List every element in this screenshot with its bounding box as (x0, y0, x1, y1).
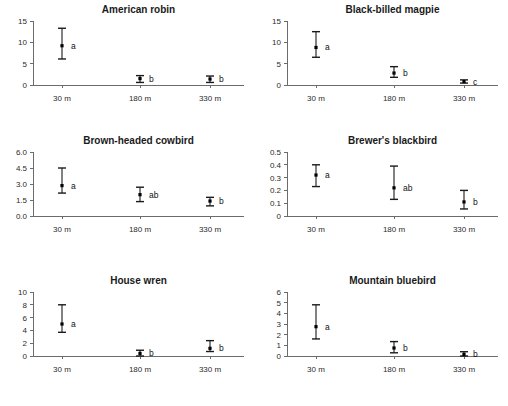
data-point-group: a (312, 305, 330, 339)
mean-marker (60, 44, 63, 47)
mean-marker (208, 199, 211, 202)
x-tick-label: 30 m (307, 365, 325, 374)
y-tick-label: 0.2 (270, 186, 282, 195)
panel-title: Mountain bluebird (349, 275, 436, 286)
panel-title: Brewer's blackbird (348, 135, 437, 146)
mean-marker (208, 347, 211, 350)
significance-letter: b (403, 68, 408, 78)
x-tick-label: 330 m (453, 94, 476, 103)
significance-letter: b (149, 348, 154, 358)
panel-plot: Mountain bluebird012345630 m180 m330 mab… (254, 271, 508, 406)
y-tick-label: 10 (272, 38, 281, 47)
significance-letter: b (473, 197, 478, 207)
x-tick-label: 180 m (383, 225, 406, 234)
y-tick-label: 0 (277, 352, 282, 361)
mean-marker (392, 71, 395, 74)
significance-letter: b (473, 349, 478, 359)
y-tick-label: 10 (18, 38, 27, 47)
data-point-group: b (206, 74, 224, 84)
mean-marker (60, 184, 63, 187)
panel-plot: Black-billed magpie05101530 m180 m330 ma… (254, 0, 508, 135)
data-point-group: b (136, 74, 154, 84)
panel-plot: House wren024681030 m180 m330 mabb (0, 271, 254, 406)
y-tick-label: 0.5 (270, 148, 282, 157)
x-tick-label: 30 m (53, 225, 71, 234)
data-point-group: a (312, 165, 330, 187)
y-tick-label: 6.0 (16, 148, 28, 157)
chart-panel: House wren024681030 m180 m330 mabb (0, 271, 254, 406)
y-tick-label: 0 (277, 81, 282, 90)
mean-marker (60, 322, 63, 325)
x-tick-label: 30 m (307, 225, 325, 234)
chart-panel: Black-billed magpie05101530 m180 m330 ma… (254, 0, 508, 135)
mean-marker (462, 353, 465, 356)
x-tick-label: 180 m (383, 94, 406, 103)
y-tick-label: 1.5 (16, 196, 28, 205)
significance-letter: b (149, 74, 154, 84)
y-tick-label: 4 (277, 309, 282, 318)
x-tick-label: 180 m (129, 225, 152, 234)
significance-letter: b (219, 196, 224, 206)
mean-marker (208, 77, 211, 80)
panel-title: Brown-headed cowbird (83, 135, 194, 146)
x-tick-label: 30 m (307, 94, 325, 103)
panel-title: Black-billed magpie (346, 4, 440, 15)
y-tick-label: 0 (277, 212, 282, 221)
mean-marker (462, 200, 465, 203)
y-tick-label: 0.4 (270, 161, 282, 170)
y-tick-label: 6 (23, 314, 28, 323)
y-tick-label: 15 (18, 17, 27, 26)
y-tick-label: 6 (277, 288, 282, 297)
mean-marker (314, 173, 317, 176)
data-point-group: ab (390, 166, 413, 199)
significance-letter: a (325, 42, 330, 52)
significance-letter: ab (403, 183, 413, 193)
y-tick-label: 5 (277, 60, 282, 69)
x-tick-label: 180 m (129, 94, 152, 103)
significance-letter: a (325, 322, 330, 332)
data-point-group: b (460, 349, 478, 359)
mean-marker (462, 80, 465, 83)
y-tick-label: 5 (277, 299, 282, 308)
x-tick-label: 30 m (53, 365, 71, 374)
x-tick-label: 330 m (199, 94, 222, 103)
mean-marker (392, 186, 395, 189)
data-point-group: b (390, 67, 408, 78)
data-point-group: b (390, 342, 408, 353)
data-point-group: a (58, 168, 76, 193)
data-point-group: b (206, 341, 224, 354)
mean-marker (314, 325, 317, 328)
significance-letter: a (71, 41, 76, 51)
mean-marker (392, 346, 395, 349)
data-point-group: b (206, 196, 224, 206)
y-tick-label: 10 (18, 288, 27, 297)
mean-marker (138, 193, 141, 196)
x-tick-label: 180 m (129, 365, 152, 374)
x-tick-label: 330 m (199, 365, 222, 374)
y-tick-label: 0.3 (270, 174, 282, 183)
chart-panel: American robin05101530 m180 m330 mabb (0, 0, 254, 135)
data-point-group: a (58, 28, 76, 59)
significance-letter: b (219, 74, 224, 84)
x-tick-label: 30 m (53, 94, 71, 103)
y-tick-label: 15 (272, 17, 281, 26)
x-tick-label: 330 m (453, 225, 476, 234)
significance-letter: b (403, 343, 408, 353)
y-tick-label: 0 (23, 81, 28, 90)
multi-panel-figure: American robin05101530 m180 m330 mabbBla… (0, 0, 508, 406)
data-point-group: a (312, 32, 330, 58)
data-point-group: b (136, 348, 154, 358)
panel-title: American robin (102, 4, 175, 15)
y-tick-label: 4 (23, 326, 28, 335)
significance-letter: a (71, 181, 76, 191)
y-tick-label: 3 (277, 320, 282, 329)
significance-letter: ab (149, 190, 159, 200)
y-tick-label: 8 (23, 301, 28, 310)
y-tick-label: 0 (23, 352, 28, 361)
x-tick-label: 330 m (199, 225, 222, 234)
mean-marker (138, 77, 141, 80)
panel-title: House wren (110, 275, 167, 286)
y-tick-label: 2 (23, 339, 28, 348)
data-point-group: b (460, 190, 478, 209)
y-tick-label: 0.1 (270, 199, 282, 208)
